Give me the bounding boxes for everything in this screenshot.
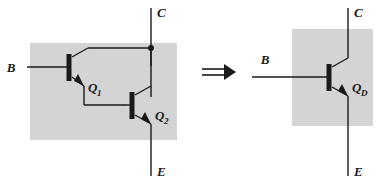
left-base-label: B <box>6 60 16 75</box>
qd-label-subscript: D <box>360 88 368 98</box>
right-emitter-label: E <box>353 164 363 179</box>
implies-arrow-glyph <box>202 64 236 80</box>
q2-label-subscript: 2 <box>163 116 169 126</box>
left-shaded-region <box>30 43 177 140</box>
right-base-label: B <box>260 52 270 67</box>
right-collector-label: C <box>354 5 363 20</box>
circuit-svg: C B E Q 1 Q 2 C B E Q D <box>0 0 383 184</box>
left-emitter-label: E <box>156 164 166 179</box>
circuit-figure: C B E Q 1 Q 2 C B E Q D <box>0 0 383 184</box>
junction-dot <box>148 45 154 51</box>
left-collector-label: C <box>157 5 166 20</box>
q1-label-subscript: 1 <box>97 88 102 98</box>
